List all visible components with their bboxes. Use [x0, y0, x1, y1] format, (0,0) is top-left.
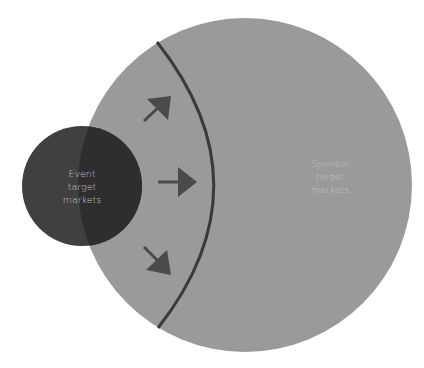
- sponsor-label-line-3: markets: [290, 183, 370, 196]
- sponsor-label-line-2: target: [290, 170, 370, 183]
- event-target-markets-label: Event target markets: [42, 167, 122, 206]
- event-label-line-2: target: [42, 180, 122, 193]
- sponsor-label-line-1: Sponsor: [290, 157, 370, 170]
- event-label-line-3: markets: [42, 193, 122, 206]
- event-label-line-1: Event: [42, 167, 122, 180]
- sponsor-target-markets-label: Sponsor target markets: [290, 157, 370, 196]
